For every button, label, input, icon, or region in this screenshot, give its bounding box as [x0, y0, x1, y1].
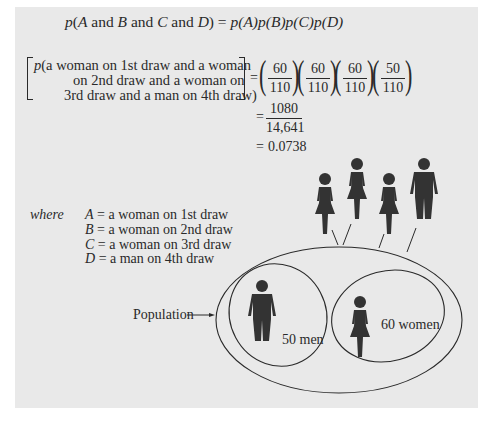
population-label: Population	[133, 308, 194, 322]
woman-icon-draw-2	[347, 158, 367, 219]
men-count-label: 50 men	[282, 333, 324, 347]
women-ellipse	[321, 258, 454, 374]
woman-icon-draw-3	[379, 173, 399, 234]
population-diagram	[0, 0, 487, 423]
woman-icon-population	[350, 296, 370, 357]
drawn-sample	[315, 158, 438, 234]
man-icon-population	[248, 280, 276, 341]
draw-connectors	[332, 224, 416, 252]
men-ellipse	[211, 247, 345, 384]
women-count-label: 60 women	[381, 318, 440, 332]
man-icon-draw-4	[410, 158, 438, 219]
arrow-head-icon	[209, 313, 215, 317]
woman-icon-draw-1	[315, 173, 335, 234]
